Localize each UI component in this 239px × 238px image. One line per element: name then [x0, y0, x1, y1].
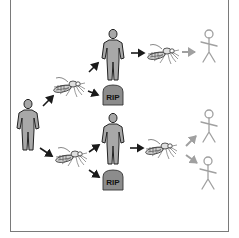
arrow-source-to-mosquito-upper: [43, 96, 53, 106]
healthy-person-1-icon: [201, 30, 217, 62]
tombstone-lower-label: RIP: [106, 178, 120, 187]
arrow-mosquito-to-tomb-upper: [88, 91, 98, 95]
mosquito-lower-icon: [55, 148, 87, 168]
tombstone-lower-icon: RIP: [103, 170, 123, 190]
healthy-person-2-icon: [201, 110, 217, 142]
arrow-to-healthy-3: [186, 155, 197, 163]
person-upper-icon: [102, 29, 124, 80]
source-person-icon: [17, 99, 39, 150]
transmission-diagram: RIP RIP: [0, 0, 239, 238]
arrow-mosquito-to-person-lower: [89, 145, 99, 152]
mosquito-right-upper-icon: [147, 45, 179, 65]
healthy-person-3-icon: [200, 157, 216, 189]
tombstone-upper-label: RIP: [106, 93, 120, 102]
mosquito-upper-icon: [53, 78, 85, 98]
tombstone-upper-icon: RIP: [103, 85, 123, 105]
arrow-mosquito-to-tomb-lower: [89, 170, 99, 177]
arrow-mosquito-to-person-upper: [89, 63, 98, 72]
arrow-to-healthy-2: [186, 136, 196, 146]
arrow-source-to-mosquito-lower: [40, 148, 52, 156]
person-lower-icon: [102, 113, 124, 164]
mosquito-right-lower-icon: [145, 140, 177, 160]
